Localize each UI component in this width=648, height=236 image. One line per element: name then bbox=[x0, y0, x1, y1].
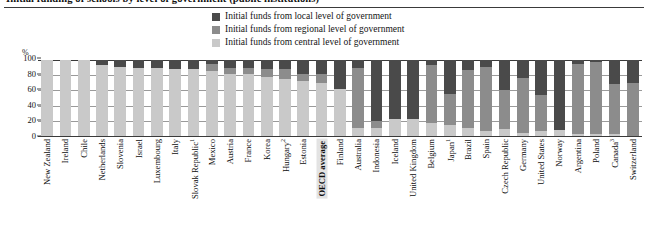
bar-segment-central bbox=[535, 131, 547, 136]
bar-slot bbox=[294, 60, 312, 136]
x-axis-category-slot: France bbox=[239, 139, 257, 234]
bar-segment-regional bbox=[371, 121, 383, 129]
bar-segment-local bbox=[114, 60, 126, 67]
x-axis-category-label: OECD average bbox=[316, 139, 327, 199]
bar-slot bbox=[624, 60, 642, 136]
bar-slot bbox=[129, 60, 147, 136]
y-axis-tick-label: 80 bbox=[14, 69, 36, 79]
bar-segment-central bbox=[316, 83, 328, 136]
bar-segment-central bbox=[151, 68, 163, 136]
stacked-bar bbox=[60, 60, 72, 136]
bar-segment-local bbox=[517, 60, 529, 78]
x-axis-category-slot: Iceland bbox=[386, 139, 404, 234]
stacked-bar bbox=[462, 60, 474, 136]
bar-segment-regional bbox=[590, 62, 602, 133]
x-axis-category-label: United Kingdom bbox=[409, 139, 418, 197]
title-rule bbox=[4, 7, 644, 8]
x-axis-category-slot: Norway bbox=[550, 139, 568, 234]
bar-segment-local bbox=[188, 60, 200, 69]
stacked-bar bbox=[407, 60, 419, 136]
footnote-marker: 3 bbox=[609, 139, 615, 142]
y-axis-tick-label: 100 bbox=[14, 53, 36, 63]
footnote-marker: 1 bbox=[445, 139, 451, 142]
bar-slot bbox=[111, 60, 129, 136]
bar-segment-regional bbox=[444, 94, 456, 125]
stacked-bar bbox=[554, 60, 566, 136]
bar-segment-local bbox=[151, 60, 163, 68]
stacked-bar bbox=[169, 60, 181, 136]
x-axis-category-slot: Israel bbox=[129, 139, 147, 234]
x-axis-category-slot: Austria bbox=[221, 139, 239, 234]
bar-slot bbox=[203, 60, 221, 136]
bar-segment-local bbox=[499, 60, 511, 90]
bar-segment-regional bbox=[499, 90, 511, 130]
figure-title-text: Initial funding of schools by level of g… bbox=[6, 0, 319, 4]
bar-slot bbox=[550, 60, 568, 136]
stacked-bar bbox=[590, 60, 602, 136]
bar-slot bbox=[422, 60, 440, 136]
bar-segment-regional bbox=[352, 68, 364, 128]
bar-segment-regional bbox=[462, 70, 474, 129]
stacked-bar bbox=[627, 60, 639, 136]
stacked-bar bbox=[133, 60, 145, 136]
x-axis-category-slot: Finland bbox=[331, 139, 349, 234]
bar-segment-local bbox=[352, 60, 364, 68]
bar-segment-central bbox=[554, 130, 566, 136]
bar-segment-local bbox=[169, 60, 181, 69]
x-axis-category-label: Belgium bbox=[427, 139, 436, 169]
x-axis-category-label: Australia bbox=[354, 139, 363, 171]
bar-slot bbox=[532, 60, 550, 136]
stacked-bar bbox=[151, 60, 163, 136]
x-axis-category-slot: Slovak Republic1 bbox=[184, 139, 202, 234]
x-axis-category-slot: Mexico bbox=[203, 139, 221, 234]
bar-segment-local bbox=[133, 60, 145, 68]
legend-item-local: Initial funds from local level of govern… bbox=[212, 11, 404, 22]
bar-segment-regional bbox=[609, 84, 621, 134]
bar-segment-regional bbox=[206, 64, 218, 71]
bar-segment-local bbox=[334, 60, 346, 89]
bar-segment-central bbox=[133, 68, 145, 136]
bar-segment-central bbox=[426, 123, 438, 136]
x-axis-category-slot: United Kingdom bbox=[404, 139, 422, 234]
stacked-bar bbox=[224, 60, 236, 136]
x-axis-category-label: Japan1 bbox=[444, 139, 456, 162]
bar-segment-local bbox=[627, 60, 639, 83]
x-axis-category-slot: United States bbox=[532, 139, 550, 234]
bar-segment-local bbox=[480, 60, 492, 67]
x-axis-category-label: Argentina bbox=[573, 139, 582, 173]
x-axis-category-label: Canada3 bbox=[608, 139, 620, 168]
x-axis-category-slot: Italy bbox=[166, 139, 184, 234]
bar-slot bbox=[239, 60, 257, 136]
bar-segment-central bbox=[188, 69, 200, 136]
x-axis-category-slot: Australia bbox=[349, 139, 367, 234]
stacked-bar bbox=[352, 60, 364, 136]
bar-segment-central bbox=[590, 134, 602, 136]
stacked-bar bbox=[316, 60, 328, 136]
y-axis-labels: 020406080100 bbox=[14, 58, 36, 136]
gridline bbox=[38, 136, 642, 137]
stacked-bar bbox=[96, 60, 108, 136]
bar-slot bbox=[221, 60, 239, 136]
legend-item-central: Initial funds from central level of gove… bbox=[212, 37, 404, 48]
bar-segment-central bbox=[41, 60, 53, 136]
stacked-bar bbox=[371, 60, 383, 136]
x-axis-category-slot: Korea bbox=[258, 139, 276, 234]
x-axis-category-slot: Hungary2 bbox=[276, 139, 294, 234]
bar-segment-local bbox=[444, 60, 456, 94]
x-axis-category-label: New Zealand bbox=[43, 139, 52, 185]
bar-segment-central bbox=[499, 129, 511, 136]
x-axis-category-label: Norway bbox=[555, 139, 564, 167]
stacked-bar bbox=[517, 60, 529, 136]
x-axis-category-slot: Indonesia bbox=[367, 139, 385, 234]
bar-slot bbox=[184, 60, 202, 136]
footnote-marker: 2 bbox=[280, 139, 286, 142]
bar-slot bbox=[495, 60, 513, 136]
stacked-bar bbox=[444, 60, 456, 136]
bar-slot bbox=[331, 60, 349, 136]
bar-segment-central bbox=[609, 134, 621, 136]
bar-slot bbox=[75, 60, 93, 136]
y-axis-tick-label: 0 bbox=[14, 131, 36, 141]
bar-slot bbox=[477, 60, 495, 136]
bar-segment-local bbox=[554, 60, 566, 130]
bar-series-group bbox=[38, 60, 642, 136]
